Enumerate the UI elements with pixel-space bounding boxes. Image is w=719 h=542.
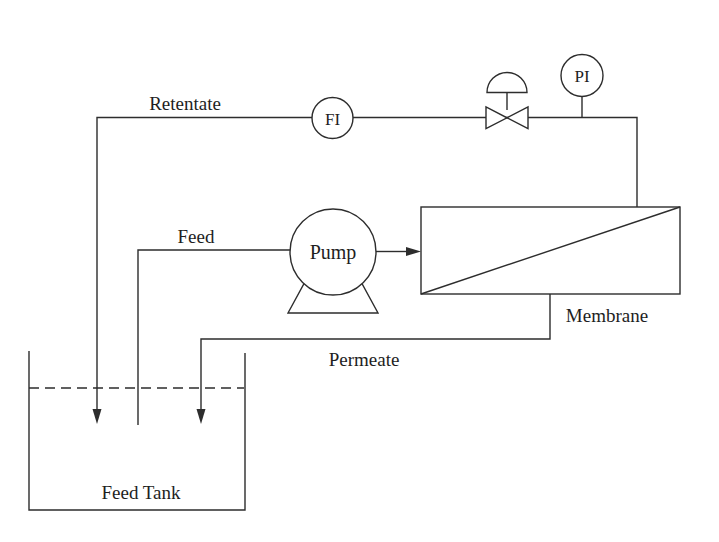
pump-unit: Pump (288, 209, 378, 313)
pump-label: Pump (310, 241, 357, 264)
feed-pipe (138, 250, 291, 425)
retentate-arrow-down-icon (93, 409, 102, 424)
pump-outlet-arrow-icon (406, 247, 421, 256)
permeate-arrow-down-icon (197, 409, 206, 424)
fi-tag: FI (325, 110, 340, 129)
membrane-unit (421, 207, 680, 294)
control-valve-icon (486, 73, 528, 129)
feed-label: Feed (178, 226, 215, 247)
diagram-svg: Pump FI PI Retentate Feed Permeate Membr… (0, 0, 719, 542)
membrane-label: Membrane (566, 305, 648, 326)
process-flow-diagram: Pump FI PI Retentate Feed Permeate Membr… (0, 0, 719, 542)
valve-right-triangle (507, 107, 528, 129)
retentate-label: Retentate (149, 93, 221, 114)
pi-indicator: PI (561, 55, 603, 118)
pi-tag: PI (574, 67, 589, 86)
permeate-label: Permeate (329, 349, 400, 370)
valve-left-triangle (486, 107, 507, 129)
fi-indicator: FI (312, 98, 353, 139)
feed-tank-label: Feed Tank (101, 482, 181, 503)
valve-actuator-dome-icon (487, 73, 527, 93)
